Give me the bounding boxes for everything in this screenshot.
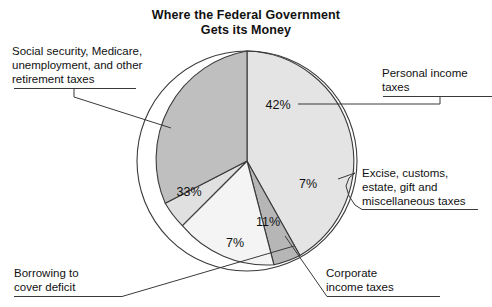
percent-label-borrowing: 7% xyxy=(226,236,244,250)
percent-label-social: 33% xyxy=(176,185,201,199)
callout-excise-line-2: estate, gift and xyxy=(362,180,466,194)
callout-social-line-3: retirement taxes xyxy=(12,72,142,86)
percent-label-corporate: 11% xyxy=(256,215,280,229)
callout-label-corporate-income-taxes: Corporate income taxes xyxy=(326,266,394,294)
callout-label-borrowing-to-cover-deficit: Borrowing to cover deficit xyxy=(14,266,79,294)
callout-personal-line-2: taxes xyxy=(382,80,468,94)
callout-corporate-line-2: income taxes xyxy=(326,280,394,294)
callout-personal-line-1: Personal income xyxy=(382,66,468,80)
callout-corporate-line-1: Corporate xyxy=(326,266,394,280)
callout-social-line-2: unemployment, and other xyxy=(12,58,142,72)
callout-social-line-1: Social security, Medicare, xyxy=(12,44,142,58)
percent-label-excise: 7% xyxy=(299,177,317,191)
chart-figure: Where the Federal Government Gets its Mo… xyxy=(0,0,492,307)
callout-borrowing-line-2: cover deficit xyxy=(14,280,79,294)
percent-label-personal: 42% xyxy=(265,98,290,112)
callout-borrowing-line-1: Borrowing to xyxy=(14,266,79,280)
callout-label-personal-income-taxes: Personal income taxes xyxy=(382,66,468,94)
callout-excise-line-3: miscellaneous taxes xyxy=(362,194,466,208)
callout-label-excise-customs: Excise, customs, estate, gift and miscel… xyxy=(362,166,466,209)
callout-excise-line-1: Excise, customs, xyxy=(362,166,466,180)
callout-label-social-security: Social security, Medicare, unemployment,… xyxy=(12,44,142,87)
leader-line-social xyxy=(14,89,171,129)
